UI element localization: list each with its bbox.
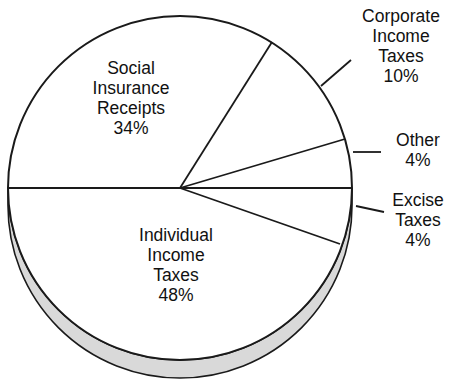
slice-label-line: Social [56, 58, 206, 78]
slice-label-line: Insurance [56, 78, 206, 98]
slice-label-excise-taxes: Excise Taxes 4% [380, 190, 456, 250]
slice-label-individual-income-taxes: Individual Income Taxes 48% [96, 225, 256, 305]
slice-label-line: Other [383, 130, 453, 150]
pie-chart: Social Insurance Receipts 34% Individual… [0, 0, 459, 383]
slice-label-line: Taxes [380, 210, 456, 230]
slice-value: 4% [380, 230, 456, 250]
slice-value: 34% [56, 118, 206, 138]
slice-label-line: Taxes [345, 46, 457, 66]
slice-value: 10% [345, 66, 457, 86]
slice-label-corporate-income-taxes: Corporate Income Taxes 10% [345, 6, 457, 86]
slice-label-line: Excise [380, 190, 456, 210]
slice-label-line: Income [345, 26, 457, 46]
slice-label-social-insurance-receipts: Social Insurance Receipts 34% [56, 58, 206, 138]
slice-label-line: Individual [96, 225, 256, 245]
slice-label-line: Taxes [96, 265, 256, 285]
slice-label-line: Corporate [345, 6, 457, 26]
slice-label-line: Income [96, 245, 256, 265]
slice-label-line: Receipts [56, 98, 206, 118]
slice-value: 4% [383, 150, 453, 170]
slice-value: 48% [96, 285, 256, 305]
slice-label-other: Other 4% [383, 130, 453, 170]
